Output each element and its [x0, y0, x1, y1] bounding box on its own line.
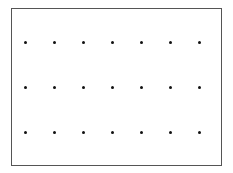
grid-dot	[140, 131, 143, 134]
grid-dot	[169, 131, 172, 134]
grid-dot	[53, 86, 56, 89]
grid-dot	[24, 86, 27, 89]
grid-dot	[111, 41, 114, 44]
grid-dot	[82, 41, 85, 44]
grid-frame	[11, 8, 222, 166]
grid-dot	[111, 131, 114, 134]
grid-dot	[82, 131, 85, 134]
grid-dot	[111, 86, 114, 89]
grid-dot	[169, 41, 172, 44]
grid-dot	[198, 131, 201, 134]
grid-dot	[82, 86, 85, 89]
grid-dot	[198, 41, 201, 44]
grid-dot	[53, 131, 56, 134]
grid-dot	[140, 86, 143, 89]
grid-dot	[140, 41, 143, 44]
grid-dot	[198, 86, 201, 89]
grid-dot	[24, 131, 27, 134]
grid-dot	[169, 86, 172, 89]
grid-dot	[24, 41, 27, 44]
grid-dot	[53, 41, 56, 44]
